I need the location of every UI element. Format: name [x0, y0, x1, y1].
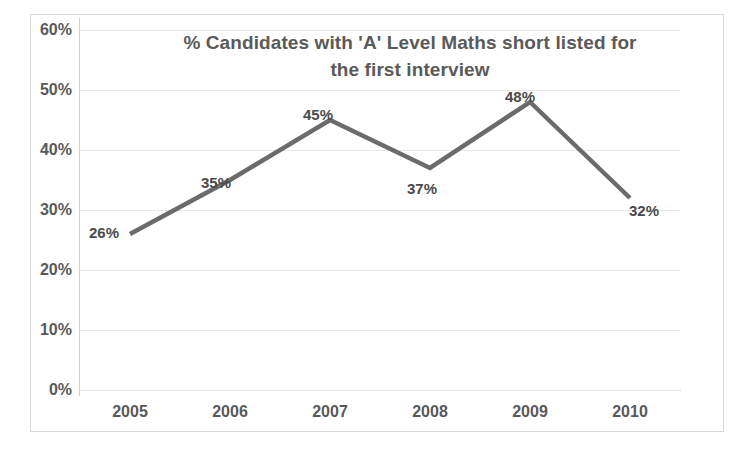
y-axis-tick-label: 50% [16, 82, 72, 98]
x-axis-tick-label: 2008 [375, 404, 485, 420]
y-axis-tick-label: 0% [16, 382, 72, 398]
x-axis-tick-label: 2009 [475, 404, 585, 420]
x-axis-tick-label: 2010 [575, 404, 685, 420]
gridline [80, 270, 680, 271]
data-point-label: 45% [303, 107, 333, 122]
y-axis-tick-label: 10% [16, 322, 72, 338]
y-axis-tick-label: 40% [16, 142, 72, 158]
x-axis: 200520062007200820092010 [80, 404, 680, 428]
x-axis-tick-label: 2006 [175, 404, 285, 420]
gridline [80, 330, 680, 331]
chart-title: % Candidates with 'A' Level Maths short … [130, 30, 690, 84]
data-point-label: 48% [505, 89, 535, 104]
data-point-label: 37% [407, 181, 437, 196]
gridline [80, 390, 680, 391]
y-axis-tick-label: 20% [16, 262, 72, 278]
chart-container: 0%10%20%30%40%50%60% 2005200620072008200… [0, 0, 753, 462]
data-point-label: 32% [629, 203, 659, 218]
x-axis-tick-label: 2007 [275, 404, 385, 420]
gridline [80, 90, 680, 91]
data-point-label: 26% [89, 225, 119, 240]
gridline [80, 210, 680, 211]
plot-area [80, 30, 680, 390]
y-axis-tick-label: 60% [16, 22, 72, 38]
y-axis: 0%10%20%30%40%50%60% [8, 30, 72, 390]
y-axis-tick-label: 30% [16, 202, 72, 218]
chart-title-line-1: % Candidates with 'A' Level Maths short … [130, 30, 690, 57]
x-axis-tick-label: 2005 [75, 404, 185, 420]
chart-title-line-2: the first interview [130, 57, 690, 84]
gridline [80, 150, 680, 151]
data-point-label: 35% [201, 175, 231, 190]
